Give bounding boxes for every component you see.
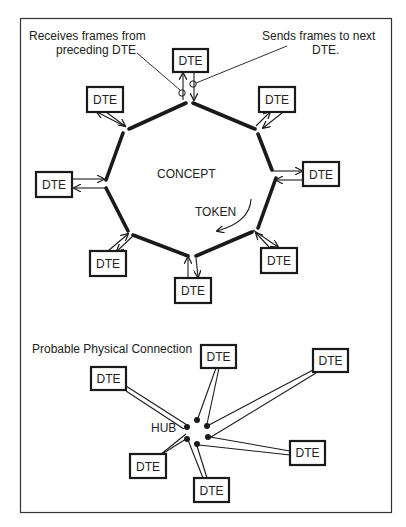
dte-hub-node-bottom: DTE	[194, 478, 229, 502]
concept-label: CONCEPT	[157, 167, 216, 181]
svg-text:DTE: DTE	[93, 93, 117, 107]
token-label: TOKEN	[195, 205, 236, 219]
dte-hub-node-right: DTE	[290, 441, 325, 465]
svg-text:DTE: DTE	[267, 254, 291, 268]
send-point-marker	[190, 81, 196, 87]
hub-label: HUB	[151, 421, 176, 435]
dte-node-upper-right: DTE	[259, 87, 295, 112]
receive-point-marker	[179, 90, 185, 96]
dte-node-bottom: DTE	[175, 278, 211, 303]
svg-text:DTE: DTE	[265, 93, 289, 107]
sends-leader-line	[196, 46, 287, 83]
dte-node-lower-left: DTE	[90, 251, 126, 276]
svg-text:DTE: DTE	[309, 168, 333, 182]
svg-text:DTE: DTE	[319, 354, 343, 368]
dte-node-lower-right: DTE	[261, 248, 297, 273]
svg-text:DTE: DTE	[207, 350, 231, 364]
svg-text:DTE: DTE	[42, 178, 66, 192]
dte-hub-node-lower-left: DTE	[130, 454, 166, 478]
sends-annotation-line1: Sends frames to next	[262, 29, 376, 43]
sends-annotation-line2: DTE.	[312, 43, 339, 57]
svg-text:DTE: DTE	[296, 446, 320, 460]
receives-annotation-line1: Receives frames from	[29, 29, 146, 43]
svg-text:DTE: DTE	[136, 460, 160, 474]
svg-text:DTE: DTE	[200, 484, 224, 498]
dte-hub-node-upper-left: DTE	[91, 367, 126, 390]
receives-annotation-line2: preceding DTE	[56, 43, 136, 57]
token-ring-diagram: Receives frames from preceding DTE Sends…	[0, 0, 406, 527]
dte-node-left: DTE	[36, 172, 72, 197]
hub-ports	[184, 417, 211, 447]
svg-text:DTE: DTE	[96, 257, 120, 271]
svg-text:DTE: DTE	[181, 284, 205, 298]
svg-text:DTE: DTE	[179, 54, 203, 68]
physical-connection-title: Probable Physical Connection	[32, 342, 192, 356]
dte-node-upper-left: DTE	[87, 87, 123, 112]
dte-node-top: DTE	[173, 49, 208, 72]
dte-node-right: DTE	[303, 162, 339, 186]
physical-nodes: DTE DTE DTE DTE DTE DTE	[91, 345, 348, 502]
dte-hub-node-top: DTE	[201, 345, 236, 368]
svg-text:DTE: DTE	[97, 372, 121, 386]
dte-hub-node-far-right: DTE	[313, 349, 348, 372]
